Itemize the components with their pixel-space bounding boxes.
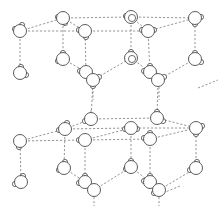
water-molecule [87, 74, 102, 89]
oxygen-atom [125, 161, 138, 174]
oxygen-atom [189, 53, 202, 66]
water-molecule [76, 134, 91, 147]
water-molecule [82, 113, 97, 126]
oxygen-atom [189, 12, 202, 25]
oxygen-atom [59, 123, 72, 136]
ice-lattice-diagram [0, 0, 218, 206]
oxygen-atom [15, 176, 28, 189]
water-molecule [122, 122, 139, 135]
oxygen-atom [87, 74, 100, 87]
water-molecule [12, 173, 27, 188]
oxygen-atom [14, 67, 27, 80]
water-molecules [12, 11, 204, 197]
water-molecule [151, 109, 166, 124]
oxygen-atom [14, 25, 27, 38]
oxygen-atom [190, 162, 203, 175]
oxygen-atom [151, 112, 164, 125]
oxygen-atom [125, 122, 138, 135]
water-molecule [56, 159, 70, 174]
oxygen-atom [152, 74, 165, 87]
water-molecule [190, 122, 205, 137]
water-molecule [125, 49, 138, 64]
oxygen-atom [88, 184, 101, 197]
oxygen-atom [57, 12, 70, 25]
hydrogen-bond [85, 139, 150, 140]
hydrogen-bond [20, 140, 85, 141]
oxygen-atom [14, 135, 27, 148]
oxygen-atom [142, 25, 155, 38]
water-molecule [55, 50, 69, 65]
water-molecule [189, 12, 204, 27]
water-molecule [56, 120, 71, 135]
water-molecule [14, 135, 27, 150]
water-molecule [139, 25, 156, 38]
oxygen-atom [79, 134, 92, 147]
oxygen-atom [79, 25, 92, 38]
hydrogen-bond [131, 17, 195, 18]
hydrogen-bond [91, 118, 157, 119]
oxygen-atom [144, 133, 157, 146]
hydrogen-bond [63, 17, 131, 18]
oxygen-atom [57, 53, 70, 66]
hydrogen-bond [150, 128, 196, 139]
water-molecule [123, 11, 137, 24]
oxygen-atom [58, 162, 71, 175]
water-molecule [141, 130, 156, 145]
water-molecule [88, 184, 101, 197]
oxygen-atom [85, 113, 98, 126]
hydrogen-bond [65, 128, 131, 129]
water-molecule [55, 12, 69, 26]
oxygen-atom [190, 122, 203, 135]
hydrogen-bond [198, 80, 218, 88]
hydrogen-bonds [20, 17, 218, 206]
water-molecule [123, 158, 137, 173]
water-molecule [187, 159, 202, 174]
water-molecule [152, 74, 167, 87]
water-molecule [12, 22, 26, 37]
water-molecule [14, 64, 29, 79]
oxygen-atom [153, 184, 166, 197]
water-molecule [189, 50, 204, 65]
